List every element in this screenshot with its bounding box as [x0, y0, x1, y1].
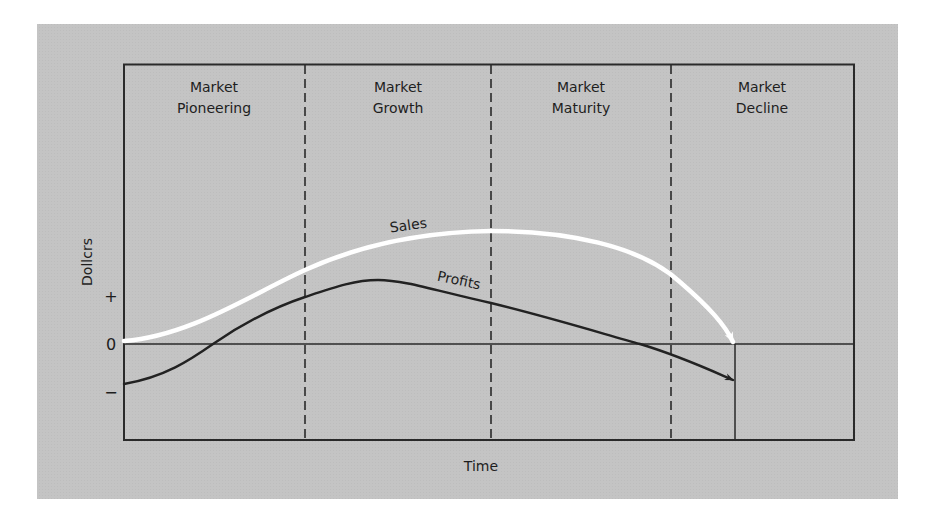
y-tick-plus: +	[104, 287, 117, 306]
stage-decline-line1: Market	[738, 79, 787, 95]
y-tick-zero: 0	[106, 335, 116, 354]
stage-growth-line2: Growth	[373, 100, 424, 116]
x-axis-label: Time	[463, 458, 498, 474]
y-axis-label: Dollcrs	[79, 238, 95, 286]
stage-maturity-line2: Maturity	[552, 100, 610, 116]
chart-svg: Market Pioneering Market Growth Market M…	[0, 0, 934, 530]
stage-decline-line2: Decline	[736, 100, 788, 116]
stage-maturity-line1: Market	[557, 79, 606, 95]
chart-background-panel	[37, 24, 898, 499]
stage-pioneering-line1: Market	[190, 79, 239, 95]
y-tick-minus: −	[104, 383, 117, 402]
product-life-cycle-figure: Market Pioneering Market Growth Market M…	[0, 0, 934, 530]
stage-growth-line1: Market	[374, 79, 423, 95]
stage-pioneering-line2: Pioneering	[177, 100, 251, 116]
